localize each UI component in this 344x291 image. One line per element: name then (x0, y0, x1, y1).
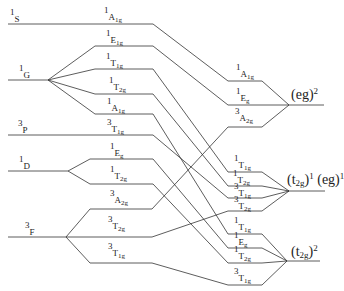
state-label-1A1g-mid-2: 1A1g (107, 98, 125, 114)
state-label-1T1g-mid: 1T1g (106, 53, 123, 69)
config-label-t2g2: (t2g)2 (291, 245, 318, 260)
config-label-eg2: (eg)2 (291, 88, 318, 103)
state-label-1A1g-mid: 1A1g (104, 7, 122, 23)
state-label-1T2g-right-2: 1T2g (234, 246, 251, 262)
state-label-3T1g-right-2: 3T1g (234, 268, 251, 284)
term-label-3F: 3F (25, 222, 35, 237)
state-label-1A1g-right: 1A1g (236, 64, 254, 80)
term-label-1G: 1G (19, 65, 30, 80)
state-label-1T2g-mid: 1T2g (110, 166, 127, 182)
state-label-3T1g-mid: 3T1g (108, 243, 125, 259)
state-label-1E1g-mid: 1E1g (106, 30, 123, 46)
state-label-3T2g-right: 3T2g (234, 197, 251, 212)
line-3F-3T1g (66, 237, 287, 285)
state-label-1Eg-mid: 1Eg (110, 143, 124, 159)
config-label-t2g1-eg1: (t2g)1 (eg)1 (287, 173, 344, 188)
line-3F-3A2g (66, 105, 289, 237)
state-label-3A2g-right: 3A2g (235, 108, 253, 124)
state-label-1Eg-right: 1Eg (236, 88, 250, 104)
term-label-3P: 3P (18, 120, 28, 135)
state-label-1T2g-mid: 1T2g (109, 77, 126, 93)
line-1D-1T2g (68, 171, 287, 263)
state-label-3T1g-mid: 3T1g (107, 119, 124, 135)
line-1G-1T1g (48, 69, 289, 191)
state-label-3T2g-mid: 3T2g (108, 216, 125, 232)
line-1G-1T2g (48, 80, 289, 191)
state-label-3A2g-mid: 3A2g (110, 190, 128, 206)
term-label-1S: 1S (10, 9, 20, 24)
term-label-1D: 1D (19, 156, 30, 171)
